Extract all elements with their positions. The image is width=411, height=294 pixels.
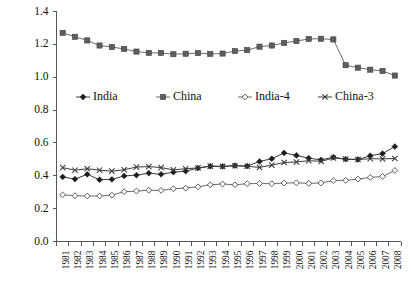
chart-legend: IndiaChinaIndia-4China-3	[76, 89, 374, 103]
series-layer	[60, 30, 398, 199]
x-tick-label: 1995	[233, 250, 243, 269]
x-tick-label: 2003	[331, 250, 341, 269]
marker-filled-square	[380, 68, 385, 73]
marker-filled-diamond	[121, 173, 127, 179]
marker-open-diamond	[195, 184, 201, 190]
x-tick-label: 2007	[381, 250, 391, 269]
marker-open-diamond	[392, 168, 398, 174]
x-tick-label: 1998	[270, 250, 280, 269]
marker-filled-diamond	[146, 170, 152, 176]
x-tick-label: 1986	[122, 250, 132, 269]
marker-filled-square	[72, 34, 77, 39]
x-tick-label: 1994	[221, 250, 231, 269]
marker-open-diamond	[281, 180, 287, 186]
x-tick-label: 2002	[319, 250, 329, 269]
x-tick-label: 1981	[61, 250, 71, 269]
marker-open-diamond	[72, 193, 78, 199]
x-tick-label: 1982	[73, 250, 83, 269]
line-chart: 0.00.20.40.60.81.01.21.4 198119821983198…	[0, 0, 411, 294]
marker-open-diamond	[207, 182, 213, 188]
marker-open-diamond	[146, 187, 152, 193]
x-tick-label: 1993	[208, 250, 218, 269]
marker-filled-diamond	[134, 172, 140, 178]
marker-filled-diamond	[269, 156, 275, 162]
marker-filled-square	[318, 36, 323, 41]
marker-open-diamond	[183, 185, 189, 191]
x-tick-label: 2008	[393, 250, 403, 269]
marker-open-diamond	[134, 188, 140, 194]
x-axis: 1981198219831984198519861987198819891990…	[57, 242, 404, 270]
marker-open-diamond	[170, 186, 176, 192]
legend-label: India-4	[255, 89, 290, 103]
marker-open-diamond	[158, 188, 164, 194]
marker-filled-square	[245, 48, 250, 53]
marker-open-diamond	[60, 192, 66, 198]
x-tick-label: 1999	[282, 250, 292, 269]
series-china	[60, 30, 397, 78]
marker-filled-diamond	[109, 177, 115, 183]
marker-open-diamond	[269, 181, 275, 187]
marker-filled-square	[97, 43, 102, 48]
marker-filled-diamond	[281, 150, 287, 156]
marker-open-diamond	[294, 180, 300, 186]
marker-filled-square	[269, 43, 274, 48]
marker-open-diamond	[306, 180, 312, 186]
marker-filled-square	[257, 44, 262, 49]
marker-open-diamond	[242, 94, 248, 100]
series-path	[63, 33, 395, 76]
marker-filled-square	[171, 52, 176, 57]
series-path	[63, 147, 395, 180]
marker-filled-square	[331, 37, 336, 42]
marker-filled-diamond	[257, 159, 263, 165]
x-tick-label: 2005	[356, 250, 366, 269]
marker-open-diamond	[343, 177, 349, 183]
marker-filled-diamond	[72, 176, 78, 182]
marker-open-diamond	[244, 181, 250, 187]
legend-item-india-4[interactable]: India-4	[238, 89, 290, 103]
legend-label: India	[93, 89, 118, 103]
marker-open-diamond	[380, 174, 386, 180]
legend-label: China-3	[335, 89, 374, 103]
marker-open-diamond	[84, 193, 90, 199]
marker-open-diamond	[232, 182, 238, 188]
marker-filled-square	[158, 50, 163, 55]
x-tick-label: 1996	[245, 250, 255, 269]
marker-filled-square	[85, 38, 90, 43]
marker-filled-square	[368, 67, 373, 72]
marker-filled-square	[294, 38, 299, 43]
marker-filled-diamond	[294, 153, 300, 159]
series-india	[60, 144, 398, 183]
x-tick-label: 2004	[344, 250, 354, 269]
marker-filled-square	[195, 50, 200, 55]
marker-open-diamond	[330, 178, 336, 184]
marker-open-diamond	[355, 176, 361, 182]
y-tick-label: 0.6	[34, 136, 49, 148]
marker-filled-diamond	[80, 94, 86, 100]
marker-filled-diamond	[392, 144, 398, 150]
x-tick-label: 2006	[368, 250, 378, 269]
x-tick-label: 1988	[147, 250, 157, 269]
marker-filled-square	[282, 40, 287, 45]
marker-filled-square	[60, 30, 65, 35]
marker-filled-square	[160, 94, 165, 99]
marker-filled-square	[392, 73, 397, 78]
x-tick-label: 1989	[159, 250, 169, 269]
x-tick-label: 2001	[307, 250, 317, 269]
y-tick-label: 0.0	[34, 235, 49, 247]
y-tick-label: 1.0	[34, 70, 49, 82]
marker-open-diamond	[318, 180, 324, 186]
marker-filled-square	[109, 44, 114, 49]
x-tick-label: 1987	[135, 250, 145, 269]
marker-open-diamond	[109, 192, 115, 198]
y-tick-label: 1.2	[34, 37, 49, 49]
marker-filled-diamond	[380, 151, 386, 157]
marker-filled-square	[134, 49, 139, 54]
marker-open-diamond	[97, 193, 103, 199]
marker-filled-diamond	[60, 174, 66, 180]
legend-item-india[interactable]: India	[76, 89, 118, 103]
legend-item-china[interactable]: China	[156, 89, 202, 103]
legend-label: China	[173, 89, 202, 103]
marker-filled-square	[220, 51, 225, 56]
legend-item-china-3[interactable]: China-3	[318, 89, 374, 103]
y-tick-label: 0.2	[34, 202, 49, 214]
